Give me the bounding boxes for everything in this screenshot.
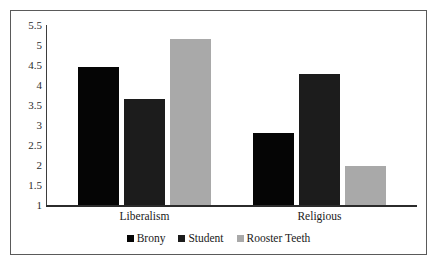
- y-axis-tick-label: 4: [37, 80, 43, 91]
- bar-rooster-teeth-liberalism: [170, 39, 211, 205]
- chart-figure: 11.522.533.544.555.5 LiberalismReligious…: [10, 10, 427, 255]
- bar-student-liberalism: [124, 99, 165, 205]
- bar-brony-liberalism: [78, 67, 119, 205]
- category-label-religious: Religious: [297, 211, 341, 223]
- bar-student-religious: [299, 74, 340, 205]
- y-axis-tick-label: 2: [37, 160, 43, 171]
- legend-swatch-icon-brony: [127, 235, 134, 242]
- y-axis-tick-label: 3: [37, 120, 43, 131]
- category-label-liberalism: Liberalism: [120, 211, 170, 223]
- y-axis-tick-label: 1: [37, 200, 43, 211]
- legend-label: Rooster Teeth: [247, 233, 311, 245]
- legend-label: Brony: [137, 233, 166, 245]
- legend-swatch-icon-student: [178, 235, 185, 242]
- y-axis-tick-label: 5.5: [28, 20, 42, 31]
- y-axis-tick-label: 1.5: [28, 180, 42, 191]
- bar-rooster-teeth-religious: [345, 166, 386, 205]
- legend-item-student[interactable]: Student: [178, 233, 223, 245]
- y-axis-line: [46, 25, 47, 206]
- y-axis-tick-label: 3.5: [28, 100, 42, 111]
- y-axis-tick-label: 5: [37, 40, 43, 51]
- x-axis-line: [46, 205, 417, 207]
- bar-group: [253, 25, 386, 205]
- legend-label: Student: [188, 233, 223, 245]
- legend-item-brony[interactable]: Brony: [127, 233, 166, 245]
- y-axis-tick-label: 4.5: [28, 60, 42, 71]
- bar-group: [78, 25, 211, 205]
- legend-item-rooster-teeth[interactable]: Rooster Teeth: [237, 233, 311, 245]
- y-axis-tick-label: 2.5: [28, 140, 42, 151]
- chart-legend: BronyStudentRooster Teeth: [11, 233, 426, 245]
- legend-swatch-icon-rooster-teeth: [237, 235, 244, 242]
- bar-brony-religious: [253, 133, 294, 205]
- plot-area: 11.522.533.544.555.5 LiberalismReligious: [46, 25, 416, 205]
